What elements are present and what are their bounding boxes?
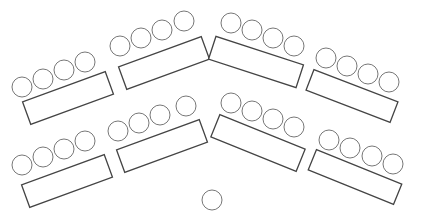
chair <box>284 36 304 56</box>
chair <box>242 101 262 121</box>
table-group <box>211 93 305 171</box>
chair <box>263 109 283 129</box>
chair <box>379 72 399 92</box>
chair <box>242 20 262 40</box>
chair <box>150 105 170 125</box>
chair <box>12 155 32 175</box>
chair <box>33 69 53 89</box>
chair <box>316 48 336 68</box>
table <box>119 37 210 90</box>
chair <box>75 52 95 72</box>
chair <box>108 121 128 141</box>
table-group <box>12 52 113 124</box>
chair <box>362 146 382 166</box>
chair <box>358 64 378 84</box>
seating-diagram <box>0 0 422 223</box>
table-group <box>308 130 403 204</box>
chair <box>340 138 360 158</box>
chair <box>33 147 53 167</box>
table-group <box>306 48 399 122</box>
chair <box>110 36 130 56</box>
presenter-chair <box>202 190 222 210</box>
chair <box>319 130 339 150</box>
chair <box>383 154 403 174</box>
table-group <box>110 11 209 89</box>
chair <box>54 60 74 80</box>
chair <box>284 117 304 137</box>
chair <box>12 77 32 97</box>
seating-canvas <box>0 0 422 223</box>
chair <box>75 131 95 151</box>
table-group <box>209 13 304 88</box>
chair <box>221 93 241 113</box>
chair <box>131 28 151 48</box>
table-group <box>108 96 207 172</box>
front-row <box>12 11 399 124</box>
chair <box>174 11 194 31</box>
chair <box>54 139 74 159</box>
chair <box>129 113 149 133</box>
chair <box>221 13 241 33</box>
chair <box>176 96 196 116</box>
chair <box>263 28 283 48</box>
table-group <box>12 131 112 207</box>
chair <box>152 20 172 40</box>
chair <box>337 56 357 76</box>
